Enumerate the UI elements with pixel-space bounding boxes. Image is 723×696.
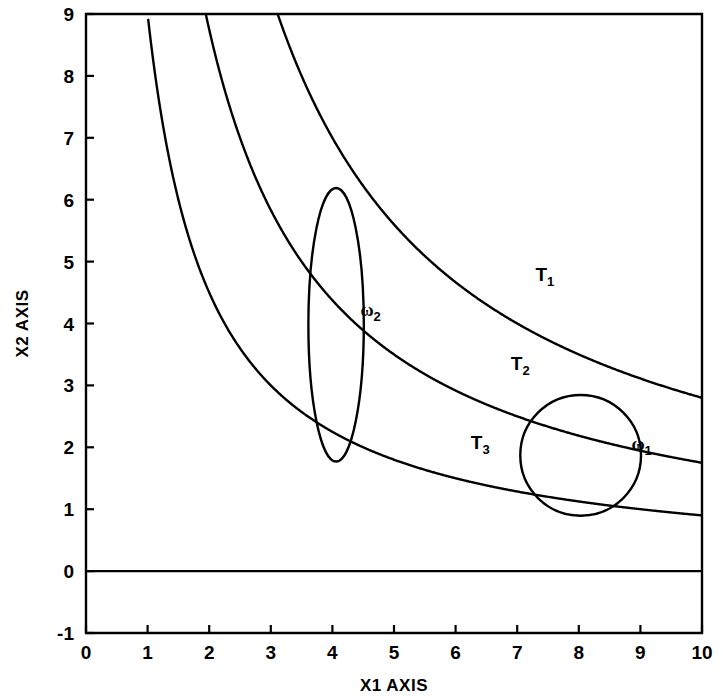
y-tick-label: 7 bbox=[63, 128, 74, 149]
x-tick-label: 9 bbox=[635, 642, 646, 663]
curve-label-t1: T1 bbox=[535, 264, 554, 289]
curve-label-subscript: 2 bbox=[522, 363, 529, 378]
y-tick-label: 4 bbox=[63, 314, 74, 335]
shape-omega1 bbox=[520, 395, 641, 516]
y-tick-label: 0 bbox=[63, 561, 74, 582]
x-tick-label: 2 bbox=[204, 642, 215, 663]
shape-label-subscript: 1 bbox=[645, 443, 652, 458]
y-tick-label: 3 bbox=[63, 375, 74, 396]
y-tick-label: 1 bbox=[63, 499, 74, 520]
x-tick-label: 4 bbox=[327, 642, 338, 663]
shape-label-subscript: 2 bbox=[374, 309, 381, 324]
plot-frame bbox=[86, 14, 702, 633]
x-tick-label: 0 bbox=[81, 642, 92, 663]
axis-ticks-group bbox=[86, 14, 702, 633]
x-tick-label: 6 bbox=[450, 642, 461, 663]
y-tick-label: 9 bbox=[63, 4, 74, 25]
x-tick-label: 8 bbox=[574, 642, 585, 663]
y-tick-label: 6 bbox=[63, 190, 74, 211]
x-tick-label: 1 bbox=[142, 642, 153, 663]
curve-label-subscript: 1 bbox=[547, 274, 554, 289]
x-tick-label: 7 bbox=[512, 642, 523, 663]
chart-svg: 012345678910-10123456789T1T2T3ω1ω2X1 AXI… bbox=[0, 0, 723, 696]
curve-t1 bbox=[278, 15, 702, 398]
curve-label-t2: T2 bbox=[511, 353, 530, 378]
curve-t3 bbox=[148, 20, 702, 516]
x-tick-label: 10 bbox=[691, 642, 712, 663]
region-shapes-group bbox=[308, 188, 641, 516]
plot-border bbox=[86, 14, 702, 633]
x-tick-label: 3 bbox=[266, 642, 277, 663]
y-tick-label: -1 bbox=[57, 623, 74, 644]
y-tick-label: 5 bbox=[63, 252, 74, 273]
chart-figure: 012345678910-10123456789T1T2T3ω1ω2X1 AXI… bbox=[0, 0, 723, 696]
curve-label-subscript: 3 bbox=[482, 442, 489, 457]
curve-label-t3: T3 bbox=[471, 432, 490, 457]
y-tick-label: 2 bbox=[63, 437, 74, 458]
y-axis-title: X2 AXIS bbox=[13, 289, 32, 357]
data-curves-group bbox=[148, 15, 702, 515]
x-tick-label: 5 bbox=[389, 642, 400, 663]
y-tick-label: 8 bbox=[63, 66, 74, 87]
x-axis-title: X1 AXIS bbox=[360, 676, 428, 695]
